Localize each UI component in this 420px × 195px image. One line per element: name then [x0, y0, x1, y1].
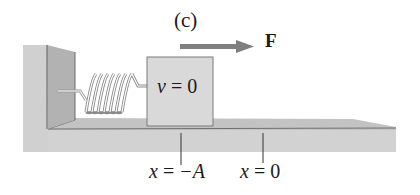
position-var: x — [240, 160, 249, 182]
position-label-zero: x = 0 — [240, 160, 280, 183]
velocity-eq: = — [166, 75, 187, 97]
velocity-var: v — [157, 75, 166, 97]
position-var: x — [149, 160, 158, 182]
floor-front — [23, 128, 396, 152]
force-label: F — [265, 30, 277, 52]
panel-label: (c) — [174, 8, 197, 33]
position-eq: = — [249, 160, 270, 182]
velocity-value: 0 — [187, 75, 197, 97]
wall-side — [47, 45, 75, 129]
force-arrow-icon — [180, 40, 254, 53]
position-eq: = — [158, 160, 179, 182]
position-value: 0 — [270, 160, 280, 182]
wall-outer — [23, 45, 48, 152]
position-label-neg-a: x = −A — [149, 160, 205, 183]
spring-mass-diagram — [0, 0, 420, 195]
position-value: −A — [179, 160, 205, 182]
velocity-label: v = 0 — [157, 75, 197, 98]
